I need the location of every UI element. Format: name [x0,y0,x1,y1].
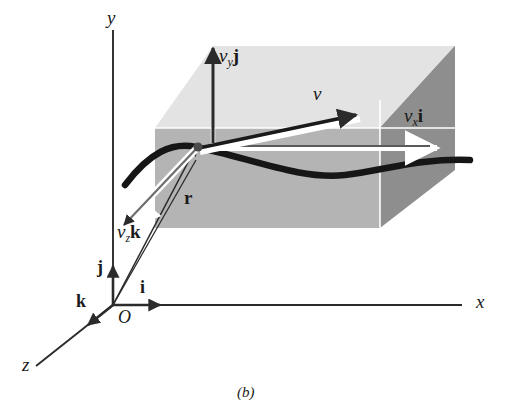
position-vector-r-label: r [184,188,192,207]
z-axis-label: z [22,355,29,374]
velocity-component-z-label: vzk [117,222,141,244]
vz-unit: k [130,221,141,242]
vy-unit: j [233,45,239,66]
velocity-component-y-label: vyj [219,46,239,68]
particle-point [193,142,202,151]
i-hat-label: i [140,278,145,296]
velocity-component-x-label: vxi [404,106,423,128]
origin-label: O [118,308,131,326]
diagram-canvas [0,0,506,411]
physics-vector-diagram: y x z O i j k r v vxi vyj vzk (b) [0,0,506,411]
k-hat-label: k [76,292,86,310]
vx-unit: i [418,105,423,126]
x-axis-label: x [476,292,484,311]
figure-caption: (b) [237,384,255,401]
velocity-vector-v-label: v [313,84,321,103]
j-hat-label: j [97,258,103,276]
k-hat-arrow [88,305,113,325]
y-axis-label: y [107,8,115,27]
